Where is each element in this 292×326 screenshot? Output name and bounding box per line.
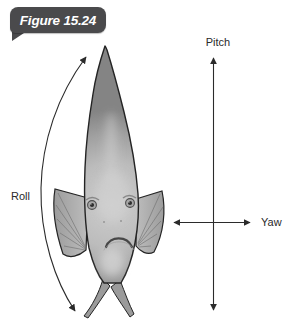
right-pelvic-fin bbox=[111, 280, 134, 317]
figure-panel: Figure 15.24 Pitch Yaw Roll bbox=[0, 0, 292, 326]
right-pectoral-fin bbox=[136, 191, 164, 253]
left-pectoral-fin bbox=[54, 189, 88, 257]
left-pelvic-fin bbox=[84, 279, 110, 318]
belly-highlight bbox=[100, 248, 124, 276]
rotation-axes-diagram bbox=[0, 0, 292, 326]
figure-badge: Figure 15.24 bbox=[10, 7, 106, 33]
body-highlight bbox=[97, 170, 129, 222]
left-nostril bbox=[103, 221, 105, 223]
left-eye bbox=[88, 201, 97, 210]
roll-arc-arrow bbox=[41, 57, 86, 311]
fish-illustration bbox=[54, 46, 164, 318]
figure-label: Figure 15.24 bbox=[20, 13, 96, 28]
right-eye bbox=[126, 199, 135, 208]
right-nostril bbox=[120, 220, 122, 222]
